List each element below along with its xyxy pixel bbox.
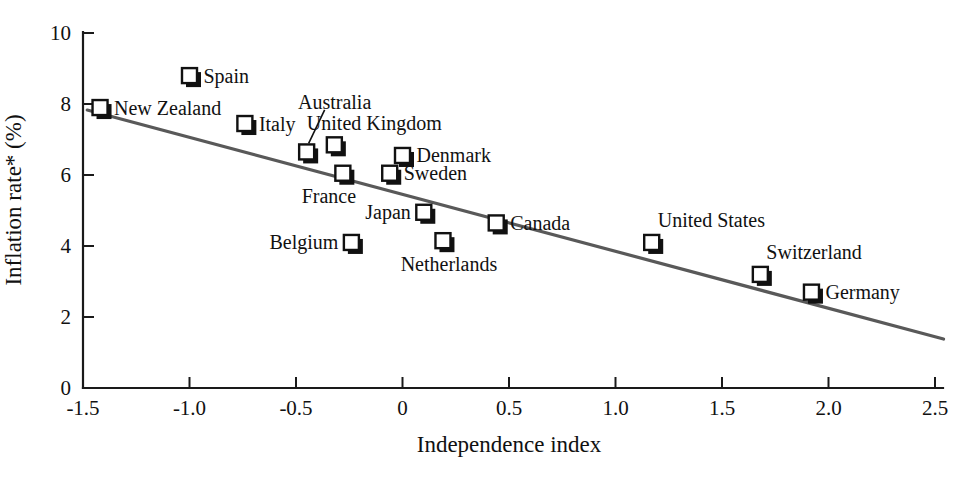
data-point-marker[interactable] bbox=[416, 205, 431, 220]
y-axis-title: Inflation rate* (%) bbox=[1, 114, 27, 285]
data-point-label: United Kingdom bbox=[307, 113, 442, 133]
data-point-label: Japan bbox=[365, 202, 411, 222]
x-axis-tick-label: 2.5 bbox=[922, 398, 948, 419]
data-point-marker[interactable] bbox=[644, 235, 659, 250]
x-axis-tick-label: 0 bbox=[397, 398, 408, 419]
x-axis-tick-label: 1.0 bbox=[602, 398, 628, 419]
x-axis-tick-label: 1.5 bbox=[709, 398, 735, 419]
x-axis-tick-label: 2.0 bbox=[815, 398, 841, 419]
data-point-marker[interactable] bbox=[299, 144, 314, 159]
x-axis-tick-label: 0.5 bbox=[496, 398, 522, 419]
data-point-marker[interactable] bbox=[395, 148, 410, 163]
y-axis-tick-label: 10 bbox=[0, 23, 71, 44]
data-point-marker[interactable] bbox=[489, 215, 504, 230]
y-axis-tick-label: 2 bbox=[0, 307, 71, 328]
scatter-chart-figure: 0246810-1.5-1.0-0.500.51.01.52.02.5New Z… bbox=[0, 0, 968, 479]
data-point-marker[interactable] bbox=[182, 68, 197, 83]
x-axis-tick-label: -1.5 bbox=[66, 398, 99, 419]
data-point-label: Italy bbox=[259, 114, 296, 134]
data-point-marker[interactable] bbox=[93, 100, 108, 115]
x-axis-tick-label: -0.5 bbox=[279, 398, 312, 419]
data-point-label: Canada bbox=[510, 213, 570, 233]
data-point-label: Belgium bbox=[269, 232, 338, 252]
data-point-label: Switzerland bbox=[766, 242, 862, 262]
data-point-label: Australia bbox=[298, 92, 371, 112]
y-axis-tick-label: 0 bbox=[0, 378, 71, 399]
data-point-label: United States bbox=[658, 210, 765, 230]
data-point-label: Germany bbox=[825, 282, 899, 302]
data-point-marker[interactable] bbox=[382, 166, 397, 181]
data-point-marker[interactable] bbox=[753, 267, 768, 282]
data-point-marker[interactable] bbox=[335, 166, 350, 181]
data-point-marker[interactable] bbox=[435, 233, 450, 248]
x-axis-title: Independence index bbox=[417, 432, 602, 458]
data-point-marker[interactable] bbox=[237, 116, 252, 131]
data-point-marker[interactable] bbox=[327, 137, 342, 152]
data-point-label: Spain bbox=[204, 66, 250, 86]
data-point-marker[interactable] bbox=[344, 235, 359, 250]
data-point-label: New Zealand bbox=[114, 98, 221, 118]
data-point-label: Sweden bbox=[404, 163, 467, 183]
x-axis-tick-label: -1.0 bbox=[173, 398, 206, 419]
y-axis-tick-label: 8 bbox=[0, 94, 71, 115]
data-point-marker[interactable] bbox=[804, 285, 819, 300]
data-point-label: Netherlands bbox=[401, 254, 498, 274]
data-point-label: France bbox=[302, 186, 356, 206]
